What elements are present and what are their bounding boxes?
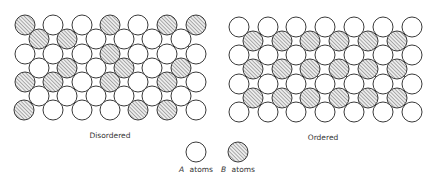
a-atom-open-circle-icon	[186, 142, 206, 162]
legend-b-text: atoms	[232, 165, 255, 174]
a-atom-open-circle-icon	[315, 102, 335, 122]
a-atom-open-circle-icon	[402, 17, 422, 37]
a-atom-open-circle-icon	[286, 102, 306, 122]
b-atom-hatched-circle-icon	[57, 29, 77, 49]
b-atom-hatched-circle-icon	[358, 59, 378, 79]
a-atom-open-circle-icon	[344, 102, 364, 122]
legend-a-text: atoms	[190, 165, 213, 174]
a-atom-open-circle-icon	[43, 100, 63, 120]
a-atom-open-circle-icon	[100, 100, 120, 120]
b-atom-hatched-circle-icon	[300, 59, 320, 79]
b-atom-hatched-circle-icon	[14, 100, 34, 120]
b-atom-hatched-circle-icon	[387, 59, 407, 79]
atomic-lattice-figure: Disordered Ordered A atoms B atoms	[0, 0, 430, 174]
disordered-label: Disordered	[90, 131, 131, 140]
b-atom-hatched-circle-icon	[29, 29, 49, 49]
a-atom-open-circle-icon	[186, 72, 206, 92]
a-atom-open-circle-icon	[114, 29, 134, 49]
a-atom-open-circle-icon	[402, 45, 422, 65]
disordered-bonds	[24, 25, 196, 110]
a-atom-open-circle-icon	[142, 29, 162, 49]
b-atom-hatched-circle-icon	[329, 59, 349, 79]
ordered-label: Ordered	[308, 133, 339, 142]
a-atom-open-circle-icon	[86, 29, 106, 49]
b-atom-hatched-circle-icon	[186, 15, 206, 35]
ordered-bonds	[239, 27, 412, 112]
a-atom-open-circle-icon	[258, 102, 278, 122]
legend-a-letter: A	[178, 165, 184, 174]
b-atom-hatched-circle-icon	[157, 100, 177, 120]
b-atom-hatched-circle-icon	[272, 59, 292, 79]
a-atom-open-circle-icon	[72, 100, 92, 120]
ordered-lattice	[229, 17, 422, 122]
legend: A atoms B atoms	[178, 142, 255, 174]
disordered-lattice	[14, 15, 206, 120]
b-atom-hatched-circle-icon	[128, 100, 148, 120]
a-atom-open-circle-icon	[229, 102, 249, 122]
legend-a-atoms-label: A atoms	[178, 165, 213, 174]
b-atom-hatched-circle-icon	[243, 59, 263, 79]
legend-b-atoms-label: B atoms	[221, 165, 255, 174]
legend-b-letter: B	[221, 165, 226, 174]
b-atom-hatched-circle-icon	[228, 142, 248, 162]
a-atom-open-circle-icon	[186, 100, 206, 120]
a-atom-open-circle-icon	[171, 29, 191, 49]
a-atom-open-circle-icon	[402, 74, 422, 94]
a-atom-open-circle-icon	[402, 102, 422, 122]
a-atom-open-circle-icon	[186, 44, 206, 64]
a-atom-open-circle-icon	[373, 102, 393, 122]
